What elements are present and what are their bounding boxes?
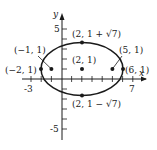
left-focus-label: (−1, 1) (14, 45, 46, 55)
y-axis-label: y (52, 9, 59, 19)
right-focus-leader (112, 56, 122, 69)
y-axis-arrow-icon (60, 13, 65, 20)
y-axis (60, 13, 68, 140)
y-tick-label-neg5: -5 (50, 124, 59, 134)
top-vertex-label: (2, 1 + √7) (72, 29, 121, 39)
center-label: (2, 1) (72, 55, 96, 65)
x-tick-label-neg3: -3 (24, 84, 33, 94)
right-focus-point (110, 67, 114, 71)
ellipse-diagram: x y -3 7 5 -5 (2, 1 + √7) (2, 1 − √7) (−… (0, 0, 157, 150)
center-point (80, 67, 84, 71)
y-tick-label-5: 5 (54, 24, 60, 34)
left-focus-point (49, 67, 53, 71)
x-axis (22, 76, 147, 82)
left-vertex-label: (−2, 1) (5, 65, 37, 75)
right-focus-label: (5, 1) (119, 45, 143, 55)
x-tick-label-7: 7 (129, 84, 135, 94)
right-vertex-label: (6, 1) (125, 65, 149, 75)
bottom-vertex-point (80, 94, 84, 98)
bottom-vertex-label: (2, 1 − √7) (72, 99, 121, 109)
top-vertex-point (80, 41, 84, 45)
left-vertex-point (39, 67, 43, 71)
